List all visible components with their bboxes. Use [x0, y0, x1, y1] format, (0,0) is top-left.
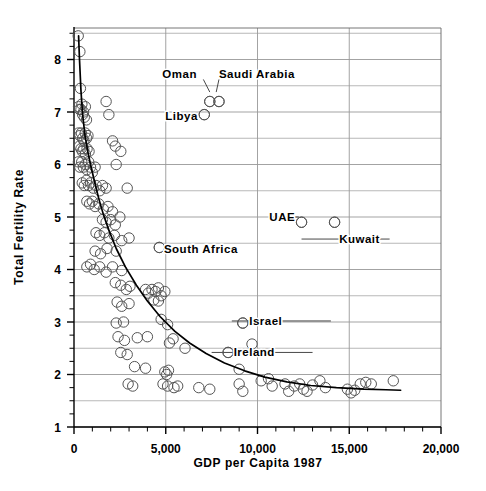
annotation-label-libya: Libya — [165, 110, 198, 122]
x-tick-label: 15,000 — [331, 442, 368, 456]
annotation-label-israel: Israel — [249, 315, 282, 327]
annotation-label-saudi-arabia: Saudi Arabia — [219, 68, 295, 80]
x-tick-label: 5,000 — [151, 442, 181, 456]
annotation-label-oman: Oman — [162, 68, 197, 80]
annotation-label-kuwait: Kuwait — [339, 233, 380, 245]
annotation-label-ireland: Ireland — [234, 346, 275, 358]
chart-canvas: OmanOmanSaudi ArabiaSaudi ArabiaLibyaLib… — [0, 0, 486, 491]
y-tick-label: 3 — [54, 316, 61, 330]
x-tick-label: 10,000 — [239, 442, 276, 456]
y-tick-label: 5 — [54, 211, 61, 225]
y-axis-title: Total Fertility Rate — [12, 169, 26, 285]
y-tick-label: 6 — [54, 158, 61, 172]
annotation-label-south-africa: South Africa — [164, 243, 238, 255]
y-tick-label: 4 — [54, 263, 61, 277]
y-tick-label: 7 — [54, 106, 61, 120]
x-tick-label: 0 — [71, 442, 78, 456]
y-tick-label: 2 — [54, 368, 61, 382]
x-tick-label: 20,000 — [423, 442, 460, 456]
annotation-label-uae: UAE — [269, 211, 295, 223]
fertility-vs-gdp-chart: OmanOmanSaudi ArabiaSaudi ArabiaLibyaLib… — [0, 0, 486, 491]
y-tick-label: 1 — [54, 421, 61, 435]
y-tick-label: 8 — [54, 53, 61, 67]
x-axis-title: GDP per Capita 1987 — [193, 456, 322, 470]
